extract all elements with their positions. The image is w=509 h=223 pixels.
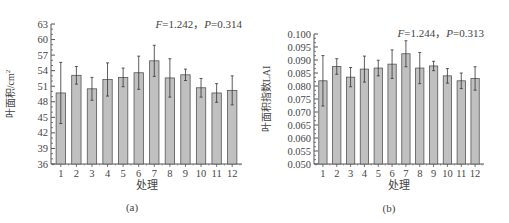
x-tick-label: 4 bbox=[105, 168, 111, 179]
bar-10 bbox=[196, 88, 205, 164]
bar-7 bbox=[402, 54, 410, 164]
panel-caption: (b) bbox=[383, 202, 396, 215]
x-tick-label: 5 bbox=[376, 168, 381, 179]
bar-5 bbox=[118, 77, 127, 164]
x-tick-label: 3 bbox=[89, 168, 94, 179]
x-tick-label: 9 bbox=[183, 168, 188, 179]
bar-6 bbox=[388, 64, 396, 164]
y-tick-label: 45 bbox=[38, 112, 49, 123]
y-tick-label: 54 bbox=[38, 65, 49, 76]
x-tick-label: 1 bbox=[320, 168, 325, 179]
y-tick-label: 0.095 bbox=[287, 42, 311, 53]
y-tick-label: 0.065 bbox=[287, 120, 311, 131]
y-axis-label: 叶面积/cm2 bbox=[4, 69, 16, 118]
x-tick-label: 9 bbox=[431, 168, 436, 179]
x-tick-label: 7 bbox=[152, 168, 157, 179]
x-tick-label: 6 bbox=[389, 168, 394, 179]
y-tick-label: 57 bbox=[38, 50, 49, 61]
stats-annotation: F=1.242，P=0.314 bbox=[155, 18, 243, 30]
x-tick-label: 1 bbox=[58, 168, 63, 179]
y-tick-label: 60 bbox=[38, 34, 49, 45]
x-tick-label: 11 bbox=[456, 168, 466, 179]
x-tick-label: 8 bbox=[167, 168, 172, 179]
x-tick-label: 10 bbox=[196, 168, 207, 179]
y-tick-label: 0.055 bbox=[287, 146, 311, 157]
lai-bar-chart: 0.0500.0550.0600.0650.0700.0750.0800.085… bbox=[250, 0, 509, 223]
y-tick-label: 0.060 bbox=[287, 133, 311, 144]
y-tick-label: 42 bbox=[38, 127, 49, 138]
x-tick-label: 6 bbox=[136, 168, 141, 179]
panel-caption: (a) bbox=[126, 201, 139, 214]
leaf-area-bar-chart: 36394245485154576063123456789101112处理叶面积… bbox=[0, 0, 250, 223]
p-value-value: =0.313 bbox=[453, 27, 484, 39]
y-tick-label: 0.085 bbox=[287, 68, 311, 79]
y-tick-label: 0.050 bbox=[287, 159, 311, 170]
y-tick-label: 0.100 bbox=[287, 29, 311, 40]
bar-11 bbox=[457, 81, 465, 164]
x-tick-label: 4 bbox=[362, 168, 368, 179]
y-tick-label: 0.090 bbox=[287, 55, 311, 66]
x-tick-label: 12 bbox=[470, 168, 481, 179]
bar-12 bbox=[471, 78, 479, 164]
bar-3 bbox=[346, 77, 354, 164]
x-tick-label: 12 bbox=[227, 168, 238, 179]
x-tick-label: 8 bbox=[417, 168, 422, 179]
bar-9 bbox=[429, 66, 437, 164]
x-tick-label: 11 bbox=[212, 168, 222, 179]
bar-2 bbox=[333, 67, 341, 165]
x-axis-label: 处理 bbox=[136, 179, 158, 191]
x-tick-label: 7 bbox=[403, 168, 408, 179]
bar-10 bbox=[443, 76, 451, 164]
y-tick-label: 0.075 bbox=[287, 94, 311, 105]
y-tick-label: 39 bbox=[38, 143, 49, 154]
chart-panel-a: 36394245485154576063123456789101112处理叶面积… bbox=[0, 0, 250, 223]
y-tick-label: 0.080 bbox=[287, 81, 311, 92]
bar-9 bbox=[181, 75, 190, 164]
y-axis-label-text: 叶面积/cm bbox=[5, 73, 16, 118]
x-tick-label: 2 bbox=[74, 168, 79, 179]
y-axis-label-superscript: 2 bbox=[4, 69, 12, 73]
stats-annotation: F=1.244，P=0.313 bbox=[397, 27, 485, 39]
chart-panel-b: 0.0500.0550.0600.0650.0700.0750.0800.085… bbox=[250, 0, 509, 223]
f-statistic-value: =1.242， bbox=[162, 18, 204, 30]
y-tick-label: 48 bbox=[38, 96, 49, 107]
y-tick-label: 36 bbox=[38, 159, 49, 170]
p-value-value: =0.314 bbox=[211, 18, 242, 30]
x-tick-label: 2 bbox=[334, 168, 339, 179]
x-tick-label: 10 bbox=[442, 168, 453, 179]
bar-2 bbox=[72, 75, 81, 164]
x-tick-label: 3 bbox=[348, 168, 353, 179]
y-tick-label: 51 bbox=[38, 81, 49, 92]
bar-4 bbox=[360, 69, 368, 164]
x-axis-label: 处理 bbox=[388, 179, 410, 191]
f-statistic-value: =1.244， bbox=[404, 27, 446, 39]
x-tick-label: 5 bbox=[121, 168, 126, 179]
bar-11 bbox=[212, 93, 221, 164]
y-tick-label: 0.070 bbox=[287, 107, 311, 118]
y-axis-label: 叶面积指数LAI bbox=[260, 66, 272, 133]
bar-5 bbox=[374, 68, 382, 164]
y-tick-label: 63 bbox=[38, 19, 49, 30]
